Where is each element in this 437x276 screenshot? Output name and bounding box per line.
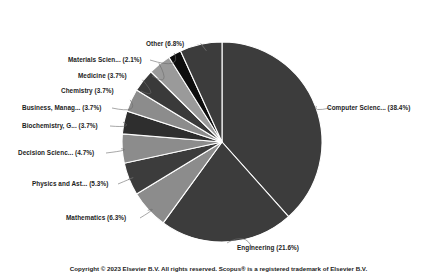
leader-line-decision-sciences: [106, 149, 124, 153]
copyright-notice: Copyright © 2023 Elsevier B.V. All right…: [0, 265, 437, 272]
slice-label-chemistry: Chemistry (3.7%): [61, 88, 114, 94]
slice-label-mathematics: Mathematics (6.3%): [66, 215, 126, 221]
slice-label-biochemistry-genetics: Biochemistry, G... (3.7%): [22, 123, 98, 129]
slice-label-computer-science: Computer Scienc... (38.4%): [327, 105, 410, 111]
slice-label-medicine: Medicine (3.7%): [78, 73, 127, 79]
slice-label-decision-sciences: Decision Scienc... (4.7%): [18, 150, 94, 156]
pie-chart-container: Computer Scienc... (38.4%) Engineering (…: [0, 0, 437, 276]
slice-label-materials-science: Materials Scien... (2.1%): [68, 57, 142, 63]
slice-label-other: Other (6.8%): [146, 41, 184, 47]
slice-label-business-management: Business, Manag... (3.7%): [22, 105, 101, 111]
slice-label-engineering: Engineering (21.6%): [237, 245, 299, 251]
pie-slices-group: [122, 42, 322, 242]
slice-label-physics-and-astronomy: Physics and Ast... (5.3%): [32, 181, 108, 187]
pie-chart-svg: [0, 0, 437, 276]
